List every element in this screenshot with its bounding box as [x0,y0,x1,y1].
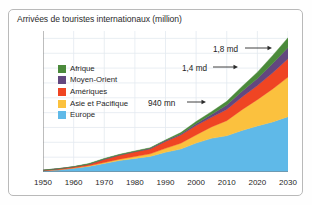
callout-label: 940 mn [148,99,175,108]
legend-label: Amériques [70,88,107,96]
legend-swatch-icon [58,65,66,73]
legend-item: Europe [58,109,128,121]
callout-label: 1,8 md [213,45,238,54]
legend-swatch-icon [58,88,66,96]
legend-item: Afrique [58,63,128,75]
legend-item: Moyen-Orient [58,75,128,87]
legend-label: Afrique [70,65,95,73]
chart-figure: Arrivées de touristes internationaux (mi… [0,0,312,205]
x-tick-label: 2030 [268,179,308,187]
legend-item: Asie et Pacifique [58,98,128,110]
legend-label: Moyen-Orient [70,76,117,84]
legend-swatch-icon [58,76,66,84]
chart-legend: AfriqueMoyen-OrientAmériquesAsie et Paci… [58,63,128,121]
legend-label: Asie et Pacifique [70,100,128,108]
legend-item: Amériques [58,86,128,98]
legend-swatch-icon [58,100,66,108]
legend-label: Europe [70,111,95,119]
legend-swatch-icon [58,111,66,119]
callout-label: 1,4 md [182,64,207,73]
